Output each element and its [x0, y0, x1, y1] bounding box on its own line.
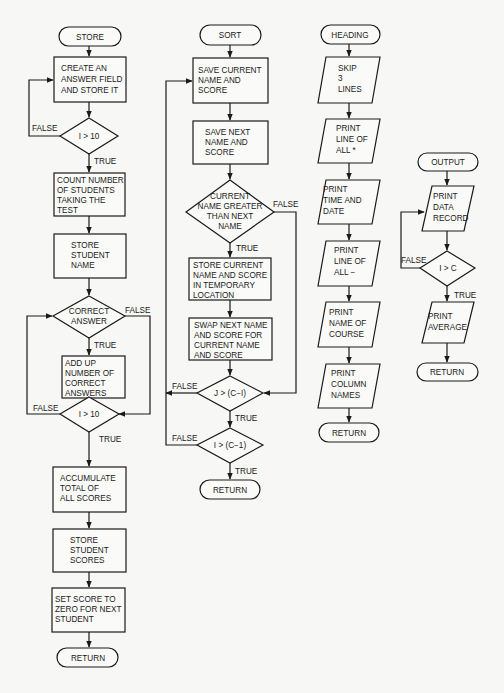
node-text: ZERO FOR NEXT — [55, 605, 121, 614]
false-label: FALSE — [33, 404, 59, 413]
node-text: CURRENT NAME — [194, 341, 260, 350]
node-text: STUDENT — [55, 615, 94, 624]
node-text: AVERAGE — [428, 323, 468, 332]
sort-process-save-current: SAVE CURRENT NAME AND SCORE — [193, 58, 268, 103]
true-label: TRUE — [236, 244, 259, 253]
flowchart-canvas: STORE CREATE AN ANSWER FIELD AND STORE I… — [0, 0, 504, 693]
node-text: SAVE NEXT — [205, 128, 250, 137]
store-process-reset-score: SET SCORE TO ZERO FOR NEXT STUDENT — [52, 588, 125, 632]
node-text: STORE — [71, 241, 100, 250]
node-text: COLUMN — [331, 380, 367, 389]
node-text: NAME — [218, 222, 242, 231]
node-text: STUDENT — [70, 546, 109, 555]
node-text: THAN NEXT — [207, 212, 253, 221]
false-label: FALSE — [172, 382, 198, 391]
node-text: ADD UP — [65, 359, 96, 368]
output-decision-i-gt-c: I > C FALSE TRUE — [401, 251, 477, 300]
node-text: NUMBER OF — [65, 369, 114, 378]
store-process-store-student-name: STORE STUDENT NAME — [54, 234, 126, 278]
heading-io-print-dashes: PRINT LINE OF ALL − — [318, 241, 380, 286]
store-process-accumulate-total: ACCUMULATE TOTAL OF ALL SCORES — [53, 467, 126, 512]
node-text: COUNT NUMBER — [57, 176, 124, 185]
flowchart-heading: HEADING SKIP 3 LINES PRINT LINE OF ALL *… — [318, 25, 380, 442]
store-start-label: STORE — [76, 33, 105, 42]
sort-process-store-temp: STORE CURRENT NAME AND SCORE IN TEMPORAR… — [189, 258, 271, 300]
heading-io-print-time-date: PRINT TIME AND DATE — [318, 180, 380, 224]
true-label: TRUE — [235, 467, 258, 476]
node-text: LINES — [338, 85, 362, 94]
flowchart-store: STORE CREATE AN ANSWER FIELD AND STORE I… — [27, 27, 151, 667]
node-text: PRINT — [428, 312, 453, 321]
node-text: PRINT — [334, 246, 359, 255]
node-text: PRINT — [329, 308, 354, 317]
node-text: ANSWER FIELD — [61, 75, 123, 84]
flowchart-output: OUTPUT PRINT DATA RECORD I > C FALSE TRU… — [401, 153, 478, 381]
heading-start-terminator: HEADING — [321, 25, 380, 44]
heading-io-print-column-names: PRINT COLUMN NAMES — [318, 364, 380, 408]
node-text: SKIP — [338, 64, 357, 73]
false-label: FALSE — [172, 434, 198, 443]
sort-end-terminator: RETURN — [200, 480, 260, 499]
node-text: SCORE — [198, 86, 228, 95]
node-text: ALL * — [336, 146, 357, 155]
node-text: I > (C−1) — [214, 441, 247, 450]
node-text: NAMES — [331, 391, 361, 400]
sort-process-save-next: SAVE NEXT NAME AND SCORE — [193, 121, 268, 164]
node-text: STUDENT — [71, 251, 110, 260]
node-text: 3 — [338, 74, 343, 83]
node-text: AND STORE IT — [61, 86, 118, 95]
node-text: COURSE — [329, 330, 365, 339]
output-start-terminator: OUTPUT — [418, 153, 478, 171]
node-text: CORRECT — [65, 379, 105, 388]
node-text: AND SCORE FOR — [194, 331, 262, 340]
heading-io-print-course: PRINT NAME OF COURSE — [318, 302, 380, 347]
output-end-label: RETURN — [430, 368, 464, 377]
node-text: I > C — [439, 264, 457, 273]
sort-start-label: SORT — [219, 31, 242, 40]
node-text: TIME AND — [323, 196, 362, 205]
store-start-terminator: STORE — [59, 27, 121, 46]
node-text: TEST — [57, 206, 78, 215]
node-text: PRINT — [336, 124, 361, 133]
node-text: STORE — [70, 536, 99, 545]
node-text: AND SCORE — [194, 351, 243, 360]
store-decision-i-gt-10-first: I > 10 FALSE TRUE — [32, 118, 118, 166]
store-end-terminator: RETURN — [57, 648, 118, 667]
node-text: SET SCORE TO — [55, 595, 116, 604]
heading-end-label: RETURN — [332, 429, 366, 438]
node-text: NAME — [71, 261, 95, 270]
node-text: NAME AND SCORE — [193, 271, 268, 280]
true-label: TRUE — [235, 414, 258, 423]
node-text: ACCUMULATE — [60, 474, 116, 483]
store-end-label: RETURN — [71, 654, 105, 663]
false-label: FALSE — [125, 306, 151, 315]
node-text: NAME AND — [205, 138, 248, 147]
sort-process-swap: SWAP NEXT NAME AND SCORE FOR CURRENT NAM… — [189, 318, 272, 360]
node-text: I > 10 — [79, 410, 100, 419]
store-process-store-student-scores: STORE STUDENT SCORES — [53, 529, 126, 572]
false-label: FALSE — [32, 124, 58, 133]
node-text: SCORE — [205, 148, 235, 157]
store-process-count-students: COUNT NUMBER OF STUDENTS TAKING THE TEST — [54, 173, 125, 216]
sort-decision-j-gt-c-minus-i: J > (C−I) FALSE TRUE — [172, 376, 263, 423]
node-text: RECORD — [433, 214, 469, 223]
node-text: I > 10 — [79, 132, 100, 141]
node-text: PRINT — [323, 185, 348, 194]
output-io-print-average: PRINT AVERAGE — [422, 302, 474, 343]
store-decision-i-gt-10-second: I > 10 FALSE TRUE — [33, 397, 122, 444]
store-process-create-answer-field: CREATE AN ANSWER FIELD AND STORE IT — [54, 57, 126, 102]
true-label: TRUE — [94, 157, 117, 166]
node-text: PRINT — [433, 192, 458, 201]
store-process-add-up-correct: ADD UP NUMBER OF CORRECT ANSWERS — [62, 356, 125, 398]
heading-io-print-stars: PRINT LINE OF ALL * — [318, 119, 380, 163]
sort-decision-current-greater: CURRENT NAME GREATER THAN NEXT NAME FALS… — [186, 180, 299, 253]
heading-end-terminator: RETURN — [319, 423, 379, 442]
node-text: NAME AND — [198, 76, 241, 85]
node-text: CURRENT — [210, 192, 250, 201]
node-text: SCORES — [70, 556, 105, 565]
node-text: IN TEMPORARY — [193, 281, 256, 290]
heading-start-label: HEADING — [331, 31, 368, 40]
node-text: ALL SCORES — [60, 494, 112, 503]
sort-decision-i-gt-c-minus-1: I > (C−1) FALSE TRUE — [172, 428, 263, 476]
node-text: LINE OF — [334, 257, 366, 266]
